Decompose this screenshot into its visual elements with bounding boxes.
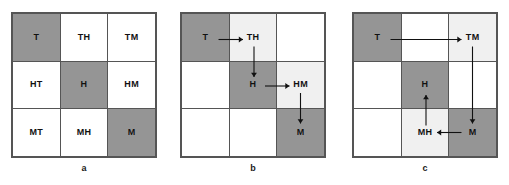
cell-c-7: MH [402, 109, 449, 156]
grid-b: T TH H HM M [180, 12, 326, 158]
grid-a: T TH TM HT H HM MT MH M [11, 12, 157, 158]
cell-label: TM [466, 33, 480, 42]
cell-c-5 [449, 62, 496, 109]
cell-label: TM [125, 33, 139, 42]
panel-a: T TH TM HT H HM MT MH M [11, 12, 157, 158]
cell-a-7: MH [61, 109, 108, 156]
cell-b-2 [277, 14, 324, 61]
cell-c-0: T [354, 14, 401, 61]
cell-label: M [128, 128, 136, 137]
cell-b-3 [182, 62, 229, 109]
cell-b-1: TH [230, 14, 277, 61]
panel-b: T TH H HM M [180, 12, 326, 158]
figure-three-grid-diagrams: T TH TM HT H HM MT MH M a T TH H HM M b [0, 0, 509, 185]
cell-label: H [422, 80, 429, 89]
cell-c-4: H [402, 62, 449, 109]
cell-label: T [33, 33, 39, 42]
panel-c-caption: c [352, 163, 498, 173]
cell-label: TH [247, 33, 260, 42]
cell-a-2: TM [108, 14, 155, 61]
cell-b-7 [230, 109, 277, 156]
cell-label: HM [124, 80, 139, 89]
cell-label: H [81, 80, 88, 89]
cell-label: T [374, 33, 380, 42]
cell-label: MH [418, 128, 433, 137]
grid-c: T TM H MH M [352, 12, 498, 158]
cell-c-3 [354, 62, 401, 109]
cell-label: MT [30, 128, 44, 137]
cell-b-4: H [230, 62, 277, 109]
cell-label: M [297, 128, 305, 137]
cell-a-8: M [108, 109, 155, 156]
cell-a-3: HT [13, 62, 60, 109]
cell-b-5: HM [277, 62, 324, 109]
cell-c-8: M [449, 109, 496, 156]
cell-label: MH [77, 128, 92, 137]
cell-label: HM [293, 80, 308, 89]
cell-a-1: TH [61, 14, 108, 61]
panel-b-caption: b [180, 163, 326, 173]
cell-a-6: MT [13, 109, 60, 156]
cell-a-0: T [13, 14, 60, 61]
panel-a-caption: a [11, 163, 157, 173]
cell-b-8: M [277, 109, 324, 156]
cell-a-5: HM [108, 62, 155, 109]
cell-a-4: H [61, 62, 108, 109]
cell-label: HT [30, 80, 43, 89]
cell-c-2: TM [449, 14, 496, 61]
cell-label: TH [78, 33, 91, 42]
cell-b-6 [182, 109, 229, 156]
cell-label: M [469, 128, 477, 137]
panel-c: T TM H MH M [352, 12, 498, 158]
cell-c-1 [402, 14, 449, 61]
cell-b-0: T [182, 14, 229, 61]
cell-label: T [202, 33, 208, 42]
cell-label: H [250, 80, 257, 89]
cell-c-6 [354, 109, 401, 156]
